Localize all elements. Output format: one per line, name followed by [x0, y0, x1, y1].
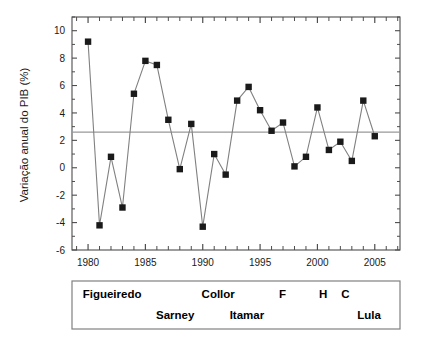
gdp-variation-chart: Variação anual do PIB (%) -6-4-20246810 … [0, 0, 429, 350]
data-point [131, 91, 137, 97]
x-tick-label: 1995 [249, 257, 272, 268]
president-label: H [319, 288, 327, 300]
president-label: Collor [202, 288, 236, 300]
data-point [349, 158, 355, 164]
data-point [245, 84, 251, 90]
x-axis-minor-ticks [77, 244, 398, 250]
x-tick-label: 2005 [364, 257, 387, 268]
y-tick-label: 6 [59, 80, 65, 91]
x-tick-label: 1985 [134, 257, 157, 268]
data-point [303, 154, 309, 160]
plot-frame [72, 17, 400, 250]
president-label: C [341, 288, 349, 300]
y-axis-tick-labels: -6-4-20246810 [54, 25, 66, 255]
data-point [314, 104, 320, 110]
data-point [280, 119, 286, 125]
x-tick-label: 1980 [77, 257, 100, 268]
y-tick-label: 2 [59, 135, 65, 146]
presidents-labels: FigueiredoCollorFHCSarneyItamarLula [83, 288, 382, 321]
data-point [119, 204, 125, 210]
president-label: Itamar [230, 309, 265, 321]
x-axis-tick-labels: 198019851990199520002005 [77, 257, 386, 268]
data-point [268, 128, 274, 134]
x-axis-top-minor-ticks [77, 17, 398, 23]
data-point [85, 38, 91, 44]
y-tick-label: 8 [59, 53, 65, 64]
data-point [211, 151, 217, 157]
data-point [222, 171, 228, 177]
x-tick-label: 2000 [306, 257, 329, 268]
data-point [200, 224, 206, 230]
y-tick-label: 0 [59, 162, 65, 173]
data-point [291, 163, 297, 169]
x-tick-label: 1990 [192, 257, 215, 268]
data-point [326, 147, 332, 153]
y-tick-label: 10 [54, 25, 66, 36]
data-point [177, 166, 183, 172]
chart-svg: Variação anual do PIB (%) -6-4-20246810 … [0, 0, 429, 350]
series-line [88, 42, 375, 227]
y-axis-ticks [72, 17, 400, 250]
data-point [234, 97, 240, 103]
data-point [154, 62, 160, 68]
president-label: Sarney [156, 309, 195, 321]
y-tick-label: -4 [56, 217, 65, 228]
data-point [372, 133, 378, 139]
president-label: Lula [357, 309, 381, 321]
president-label: Figueiredo [83, 288, 142, 300]
y-tick-label: -2 [56, 190, 65, 201]
data-point [165, 117, 171, 123]
y-axis-title: Variação anual do PIB (%) [18, 68, 30, 203]
president-label: F [279, 288, 286, 300]
data-point [337, 139, 343, 145]
y-tick-label: -6 [56, 245, 65, 256]
data-point [257, 107, 263, 113]
data-point [188, 121, 194, 127]
data-point [142, 58, 148, 64]
data-point [108, 154, 114, 160]
y-tick-label: 4 [59, 108, 65, 119]
data-point [360, 97, 366, 103]
data-point [96, 222, 102, 228]
